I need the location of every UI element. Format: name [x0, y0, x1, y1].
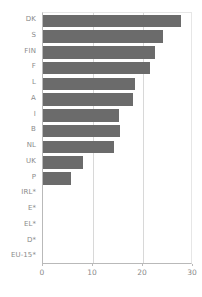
bar-NL[interactable]: [43, 141, 114, 154]
y-axis-label-B: B: [0, 122, 39, 138]
x-axis-tick-mark-0: [42, 264, 43, 266]
bar-B[interactable]: [43, 125, 120, 138]
x-axis-tick-mark-10: [92, 264, 93, 266]
bar-row: [43, 139, 191, 155]
bar-chart: DKSFINFLAIBNLUKPIRL*E*EL*D*EU-15* 010203…: [0, 0, 202, 297]
bar-A[interactable]: [43, 93, 133, 106]
x-axis-tick-label-30: 30: [187, 268, 197, 277]
plot-area: [42, 12, 192, 264]
bar-row: [43, 218, 191, 234]
y-axis-label-L: L: [0, 75, 39, 91]
y-axis-label-S: S: [0, 28, 39, 44]
y-axis-label-F: F: [0, 59, 39, 75]
bar-row: [43, 45, 191, 61]
x-axis-tick-label-10: 10: [87, 268, 97, 277]
bar-FIN[interactable]: [43, 46, 155, 59]
y-axis-category-labels: DKSFINFLAIBNLUKPIRL*E*EL*D*EU-15*: [0, 12, 39, 264]
bar-row: [43, 155, 191, 171]
bar-S[interactable]: [43, 30, 163, 43]
bar-row: [43, 234, 191, 250]
bar-row: [43, 186, 191, 202]
y-axis-label-NL: NL: [0, 138, 39, 154]
y-axis-label-EU-15star: EU-15*: [0, 248, 39, 264]
bar-L[interactable]: [43, 78, 135, 91]
y-axis-label-IRLstar: IRL*: [0, 185, 39, 201]
y-axis-label-FIN: FIN: [0, 44, 39, 60]
bar-row: [43, 92, 191, 108]
y-axis-label-Dstar: D*: [0, 233, 39, 249]
bar-F[interactable]: [43, 62, 150, 75]
y-axis-label-A: A: [0, 91, 39, 107]
bar-row: [43, 29, 191, 45]
y-axis-label-UK: UK: [0, 154, 39, 170]
y-axis-label-I: I: [0, 107, 39, 123]
y-axis-label-DK: DK: [0, 12, 39, 28]
y-axis-label-ELstar: EL*: [0, 217, 39, 233]
y-axis-label-P: P: [0, 170, 39, 186]
bar-UK[interactable]: [43, 156, 83, 169]
bar-row: [43, 76, 191, 92]
x-axis-tick-mark-30: [192, 264, 193, 266]
x-axis-tick-labels: 0102030: [0, 268, 202, 282]
bar-I[interactable]: [43, 109, 119, 122]
bar-row: [43, 108, 191, 124]
x-axis-tick-mark-20: [142, 264, 143, 266]
bar-row: [43, 171, 191, 187]
bar-row: [43, 60, 191, 76]
bar-row: [43, 202, 191, 218]
x-axis-tick-label-20: 20: [137, 268, 147, 277]
bar-row: [43, 13, 191, 29]
bars-layer: [43, 13, 191, 263]
bar-DK[interactable]: [43, 15, 181, 28]
y-axis-label-Estar: E*: [0, 201, 39, 217]
x-axis-tick-label-0: 0: [40, 268, 45, 277]
bar-row: [43, 249, 191, 265]
bar-P[interactable]: [43, 172, 71, 185]
bar-row: [43, 123, 191, 139]
